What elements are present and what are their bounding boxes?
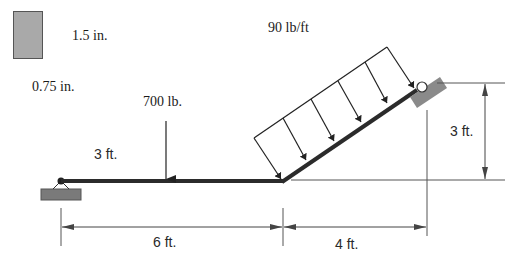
- distributed-load: [254, 47, 414, 179]
- inclined-rise-label: 3 ft.: [450, 123, 473, 139]
- inclined-beam: [282, 90, 417, 182]
- point-load-distance-label: 3 ft.: [94, 146, 117, 162]
- horizontal-span-label: 6 ft.: [153, 234, 176, 250]
- beam-diagram: 1.5 in. 0.75 in. 700 lb. 90 lb/ft 3 ft. …: [0, 0, 525, 265]
- point-load-label: 700 lb.: [143, 94, 182, 110]
- inclined-run-label: 4 ft.: [335, 236, 358, 252]
- cross-section-width-label: 0.75 in.: [32, 79, 74, 95]
- cross-section-height-label: 1.5 in.: [72, 28, 107, 44]
- reference-lines: [61, 83, 505, 246]
- distributed-load-label: 90 lb/ft: [268, 20, 309, 36]
- cross-section-rectangle: [13, 11, 43, 59]
